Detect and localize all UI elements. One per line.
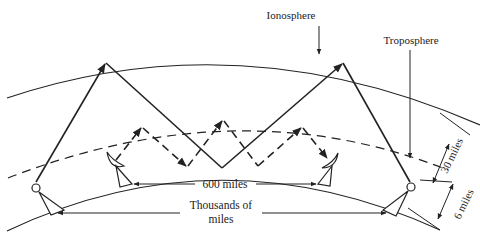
right-long-range-antenna-icon bbox=[383, 183, 415, 216]
ionosphere-layer bbox=[7, 65, 480, 125]
height-6-label: 6 miles bbox=[451, 187, 476, 221]
troposphere-layer bbox=[8, 131, 448, 178]
propagation-diagram: 600 miles Thousands of miles Ionosphere … bbox=[0, 0, 480, 239]
height-30-label: 30 miles bbox=[438, 136, 465, 175]
short-range-label: 600 miles bbox=[202, 178, 248, 190]
long-range-label-line1: Thousands of bbox=[190, 199, 252, 211]
ionospheric-path bbox=[36, 63, 410, 182]
long-range-label-line2: miles bbox=[209, 213, 234, 225]
left-long-range-antenna-icon bbox=[32, 184, 64, 215]
ionosphere-label: Ionosphere bbox=[267, 9, 316, 21]
right-dish-antenna-icon bbox=[318, 153, 338, 186]
tropospheric-path bbox=[116, 121, 327, 166]
left-dish-antenna-icon bbox=[107, 152, 132, 187]
troposphere-label: Troposphere bbox=[383, 34, 438, 46]
